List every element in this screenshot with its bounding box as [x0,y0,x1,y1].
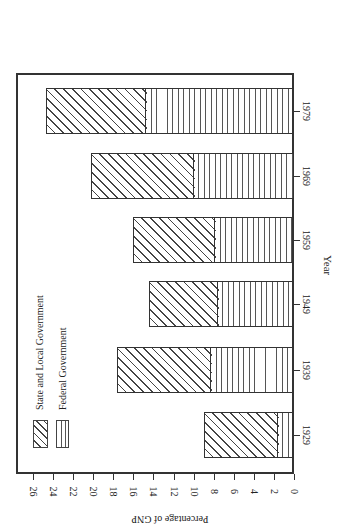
year-tick-label: 1939 [301,360,312,380]
legend-label-state: State and Local Government [34,295,45,410]
bar-1949 [149,281,294,327]
value-tick-label: 22 [68,482,79,502]
value-tick-label: 14 [148,482,159,502]
bar-segment-federal [277,413,293,457]
value-tick [93,474,94,480]
bar-segment-federal [145,89,293,133]
bar-segment-state-local [134,218,215,262]
value-tick [174,474,175,480]
value-tick [73,474,74,480]
bar-segment-federal [193,154,293,198]
bar-segment-federal [217,282,293,326]
year-tick-label: 1929 [301,425,312,445]
value-tick-label: 2 [268,482,279,502]
year-tick [294,304,300,305]
legend-swatch-federal [56,420,69,448]
year-tick [294,111,300,112]
value-tick [234,474,235,480]
value-tick-label: 4 [248,482,259,502]
bar-segment-state-local [150,282,218,326]
value-tick [294,474,295,480]
value-tick [214,474,215,480]
value-tick [153,474,154,480]
year-tick [294,370,300,371]
axis-title-year: Year [322,255,334,275]
bar-segment-federal [210,348,293,392]
value-tick-label: 16 [128,482,139,502]
legend-swatch-state [33,420,48,448]
bar-segment-federal [214,218,293,262]
bar-1979 [46,88,294,134]
value-tick-label: 0 [289,482,300,502]
year-tick-label: 1969 [301,166,312,186]
year-tick [294,240,300,241]
axis-title-percentage: Percentage of GNP [131,514,208,525]
value-tick-label: 20 [88,482,99,502]
bar-1959 [133,217,294,263]
value-tick [33,474,34,480]
bar-segment-state-local [47,89,147,133]
value-tick-label: 12 [168,482,179,502]
bar-1939 [117,347,294,393]
value-tick [274,474,275,480]
bar-1969 [91,153,294,199]
bar-1929 [204,412,294,458]
value-tick-label: 8 [208,482,219,502]
value-tick-label: 26 [27,482,38,502]
value-tick [53,474,54,480]
value-tick-label: 18 [108,482,119,502]
year-tick-label: 1949 [301,294,312,314]
value-tick [113,474,114,480]
year-tick [294,435,300,436]
value-tick-label: 24 [48,482,59,502]
value-tick-label: 6 [228,482,239,502]
bar-segment-state-local [92,154,194,198]
legend-label-federal: Federal Government [57,328,68,410]
value-tick [133,474,134,480]
value-tick [194,474,195,480]
year-tick-label: 1979 [301,101,312,121]
bar-segment-state-local [118,348,211,392]
value-tick-label: 10 [188,482,199,502]
value-tick [254,474,255,480]
year-tick [294,176,300,177]
year-tick-label: 1959 [301,230,312,250]
bar-segment-state-local [205,413,279,457]
